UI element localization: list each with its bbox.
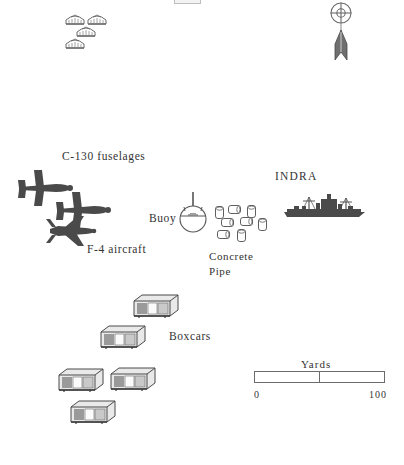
boxcar-symbol [70,398,116,424]
boxcar-symbol [110,365,156,391]
ship-indra-symbol [283,193,367,221]
concrete-pipe-symbol [237,229,246,242]
boxcar-symbol [100,323,146,349]
label-concrete-pipe-line1: Concrete [209,250,254,263]
label-indra: INDRA [275,170,317,183]
scale-bar-max-label: 100 [369,389,387,400]
revetment-dome-symbol [64,36,86,50]
concrete-pipe-symbol [217,230,230,239]
site-plan-map: C-130 fuselages F-4 aircraft Buoy [0,0,404,465]
buoy-symbol [176,191,210,239]
scale-bar-min-label: 0 [254,389,260,400]
scale-bar-title: Yards [301,358,331,370]
label-concrete-pipe-line2: Pipe [209,265,231,278]
label-boxcars: Boxcars [169,330,211,343]
scale-bar-midpoint-tick [319,371,320,383]
label-buoy: Buoy [149,212,176,225]
concrete-pipe-symbol [258,218,267,231]
concrete-pipe-symbol [228,205,241,214]
label-f4-aircraft: F-4 aircraft [87,243,146,256]
concrete-pipe-symbol [221,218,234,227]
concrete-pipe-symbol [240,217,253,226]
label-c130-fuselages: C-130 fuselages [62,150,145,163]
north-arrow-icon [324,2,358,64]
cropped-top-object [174,0,201,4]
scale-bar-box [254,371,385,383]
boxcar-symbol [133,292,179,318]
boxcar-symbol [58,366,104,392]
